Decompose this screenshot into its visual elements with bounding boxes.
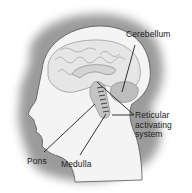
brain-diagram: Cerebellum Reticular activating system P… — [0, 0, 192, 193]
medulla-label: Medulla — [61, 160, 91, 169]
ras-label-line-3: system — [135, 130, 185, 140]
cerebellum-label: Cerebellum — [126, 30, 170, 39]
pons-label: Pons — [27, 157, 47, 166]
reticular-activating-system-label: Reticular activating system — [135, 111, 185, 140]
